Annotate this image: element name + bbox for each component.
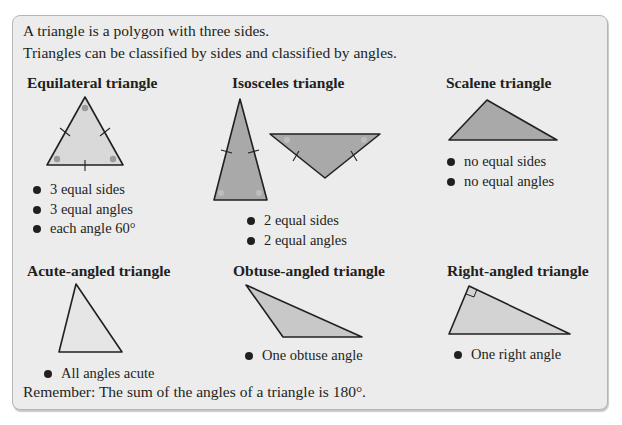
right-properties: One right angle: [451, 345, 561, 365]
equilateral-properties: 3 equal sides 3 equal angles each angle …: [30, 180, 136, 239]
isosceles-triangle-inverted-icon: [270, 134, 380, 178]
list-item: One right angle: [451, 345, 561, 365]
list-item: no equal angles: [444, 172, 554, 192]
list-item: 3 equal angles: [30, 200, 136, 220]
isosceles-properties: 2 equal sides 2 equal angles: [244, 211, 347, 250]
scalene-triangle-icon: [449, 100, 557, 140]
list-item: no equal sides: [444, 152, 554, 172]
list-item: 2 equal sides: [244, 211, 347, 231]
equilateral-triangle-icon: [47, 97, 123, 171]
obtuse-properties: One obtuse angle: [242, 346, 363, 366]
list-item: All angles acute: [41, 364, 154, 384]
right-triangle-icon: [449, 286, 570, 334]
obtuse-triangle-icon: [246, 285, 362, 337]
list-item: 2 equal angles: [244, 231, 347, 251]
list-item: 3 equal sides: [30, 180, 136, 200]
scalene-properties: no equal sides no equal angles: [444, 152, 554, 191]
isosceles-triangle-tall-icon: [214, 99, 267, 200]
list-item: each angle 60°: [30, 219, 136, 239]
remember-note: Remember: The sum of the angles of a tri…: [23, 383, 366, 401]
acute-properties: All angles acute: [41, 364, 154, 384]
list-item: One obtuse angle: [242, 346, 363, 366]
acute-triangle-icon: [59, 284, 122, 352]
